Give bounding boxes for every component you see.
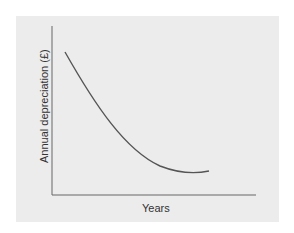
depreciation-curve xyxy=(65,52,209,173)
y-axis-label: Annual depreciation (£) xyxy=(38,49,50,163)
x-axis-label: Years xyxy=(142,202,170,214)
